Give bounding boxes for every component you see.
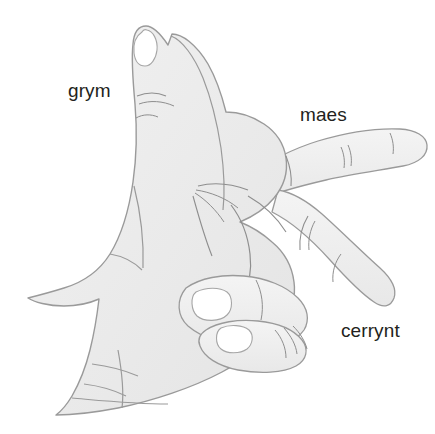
hand-illustration — [0, 0, 435, 434]
label-maes: maes — [300, 105, 347, 124]
label-cerrynt: cerrynt — [341, 321, 400, 340]
hand-diagram-figure: grym maes cerrynt — [0, 0, 435, 434]
ring-finger-nail — [192, 288, 232, 320]
label-grym: grym — [68, 81, 111, 100]
little-finger-nail — [217, 326, 253, 353]
